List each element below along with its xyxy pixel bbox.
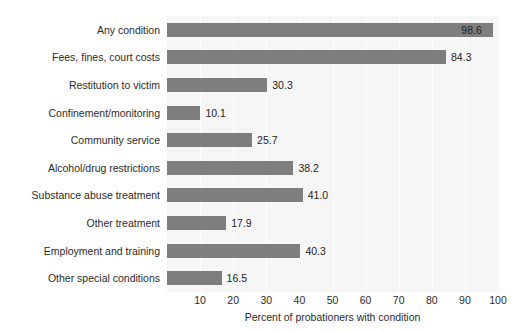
x-tick-label: 10 (194, 294, 206, 306)
bar-chart-figure: Any condition98.6Fees, fines, court cost… (0, 0, 521, 331)
bar-value-label: 10.1 (205, 107, 225, 119)
bar[interactable] (167, 244, 300, 258)
bar-wrapper: 17.9 (167, 209, 252, 237)
x-tick-label: 100 (489, 294, 507, 306)
bar-wrapper: 40.3 (167, 237, 326, 265)
bar-value-label: 25.7 (257, 134, 277, 146)
bar-wrapper: 41.0 (167, 182, 328, 210)
bar[interactable] (167, 133, 252, 147)
bar-row[interactable]: Confinement/monitoring10.1 (0, 99, 521, 127)
x-tick-label: 90 (459, 294, 471, 306)
x-axis-tick-labels: 102030405060708090100 (0, 294, 521, 308)
bar[interactable] (167, 78, 267, 92)
bar-wrapper: 10.1 (167, 99, 226, 127)
bar-wrapper: 30.3 (167, 71, 293, 99)
bar-row[interactable]: Fees, fines, court costs84.3 (0, 44, 521, 72)
x-tick-label: 20 (227, 294, 239, 306)
category-label: Community service (0, 134, 160, 146)
category-label: Other special conditions (0, 272, 160, 284)
bar-row[interactable]: Employment and training40.3 (0, 237, 521, 265)
bar-wrapper: 98.6 (167, 16, 482, 44)
bar[interactable] (167, 271, 222, 285)
bar-wrapper: 25.7 (167, 126, 278, 154)
x-tick-label: 80 (426, 294, 438, 306)
bar[interactable] (167, 50, 446, 64)
bar-row[interactable]: Other special conditions16.5 (0, 264, 521, 292)
category-label: Fees, fines, court costs (0, 51, 160, 63)
category-label: Confinement/monitoring (0, 107, 160, 119)
bar[interactable] (167, 23, 493, 37)
bar[interactable] (167, 216, 226, 230)
bar-value-label: 41.0 (308, 189, 328, 201)
bar-wrapper: 84.3 (167, 44, 471, 72)
bar-row[interactable]: Alcohol/drug restrictions38.2 (0, 154, 521, 182)
bar-row[interactable]: Community service25.7 (0, 126, 521, 154)
bar-value-label: 38.2 (298, 162, 318, 174)
x-tick-label: 60 (360, 294, 372, 306)
bar-value-label: 17.9 (231, 217, 251, 229)
x-tick-label: 40 (294, 294, 306, 306)
bar-value-label: 84.3 (451, 51, 471, 63)
category-label: Employment and training (0, 245, 160, 257)
category-label: Any condition (0, 24, 160, 36)
x-tick-label: 50 (327, 294, 339, 306)
bar[interactable] (167, 106, 200, 120)
bar-row[interactable]: Any condition98.6 (0, 16, 521, 44)
category-label: Other treatment (0, 217, 160, 229)
bar-wrapper: 16.5 (167, 264, 247, 292)
bar[interactable] (167, 161, 293, 175)
bar-row[interactable]: Other treatment17.9 (0, 209, 521, 237)
bar[interactable] (167, 188, 303, 202)
bar-value-label: 16.5 (227, 272, 247, 284)
bar-value-label: 98.6 (461, 24, 481, 36)
x-tick-label: 30 (260, 294, 272, 306)
bar-value-label: 30.3 (272, 79, 292, 91)
x-axis-title: Percent of probationers with condition (167, 311, 498, 323)
chart-title (95, 0, 425, 3)
bar-row[interactable]: Substance abuse treatment41.0 (0, 182, 521, 210)
bar-row[interactable]: Restitution to victim30.3 (0, 71, 521, 99)
category-label: Restitution to victim (0, 79, 160, 91)
bar-value-label: 40.3 (305, 245, 325, 257)
bar-wrapper: 38.2 (167, 154, 319, 182)
category-label: Alcohol/drug restrictions (0, 162, 160, 174)
category-label: Substance abuse treatment (0, 189, 160, 201)
bar-rows-container: Any condition98.6Fees, fines, court cost… (0, 16, 521, 292)
x-tick-label: 70 (393, 294, 405, 306)
